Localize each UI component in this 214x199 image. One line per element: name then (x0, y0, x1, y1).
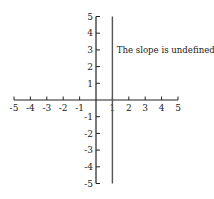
slope-undefined-annotation: The slope is undefined. (117, 45, 214, 55)
x-tick-label: 2 (126, 103, 132, 113)
x-tick-label: -4 (26, 103, 35, 113)
axes (14, 17, 178, 184)
x-tick-label: -1 (75, 103, 84, 113)
x-tick-label: 5 (175, 103, 181, 113)
chart-canvas: -5-4-3-2-11234554321-1-2-3-4-5 The slope… (0, 0, 214, 199)
x-tick-label: -3 (42, 103, 51, 113)
x-tick-label: 3 (142, 103, 148, 113)
x-tick-label: 4 (159, 103, 165, 113)
annotations: The slope is undefined. (117, 45, 214, 55)
y-tick-label: 1 (87, 79, 93, 89)
y-tick-label: -4 (84, 162, 93, 172)
y-tick-label: -1 (84, 112, 93, 122)
y-tick-label: -3 (84, 145, 93, 155)
coordinate-plane-chart: -5-4-3-2-11234554321-1-2-3-4-5 The slope… (0, 0, 214, 199)
y-tick-label: 2 (87, 62, 93, 72)
y-tick-label: 3 (87, 45, 93, 55)
x-tick-label: -5 (10, 103, 19, 113)
y-tick-label: -2 (84, 129, 93, 139)
x-tick-label: -2 (59, 103, 68, 113)
y-tick-label: 4 (87, 28, 93, 38)
y-tick-label: -5 (84, 179, 93, 189)
y-tick-label: 5 (87, 12, 93, 22)
